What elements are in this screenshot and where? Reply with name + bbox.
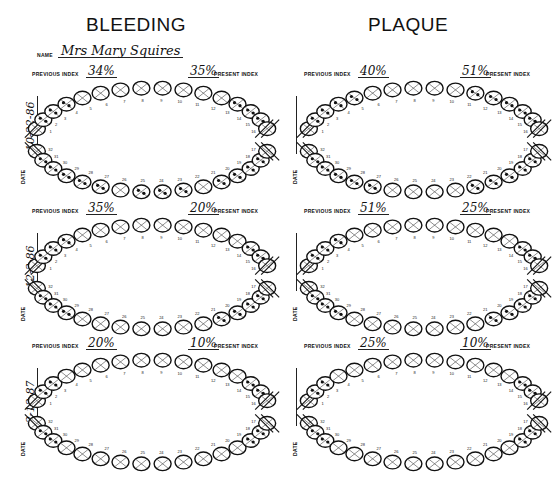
tooth-9: 9 (426, 81, 443, 103)
tooth-22: 22 (195, 311, 212, 331)
tooth-number: 23 (178, 177, 183, 182)
marked-site-dot (518, 437, 521, 440)
tooth-number: 16 (251, 401, 256, 406)
present-index-label: PRESENT INDEX (486, 208, 530, 214)
marked-site-dot (67, 104, 70, 107)
marked-site-dot (217, 179, 220, 182)
tooth-number: 16 (523, 266, 528, 271)
marked-site-dot (326, 440, 329, 443)
marked-site-dot (326, 248, 329, 251)
tooth-number: 8 (414, 98, 417, 103)
tooth-number: 27 (105, 446, 110, 451)
marked-site-dot (471, 184, 474, 187)
marked-site-dot (489, 316, 492, 319)
tooth-number: 6 (378, 239, 381, 244)
marked-site-dot (494, 182, 497, 185)
marked-site-dot (233, 310, 236, 313)
marked-site-dot (246, 108, 249, 111)
marked-site-dot (510, 104, 513, 107)
tooth-number: 27 (377, 311, 382, 316)
tooth-28: 28 (346, 170, 366, 188)
marked-site-dot (334, 238, 337, 241)
present-index-label: PRESENT INDEX (214, 71, 258, 77)
tooth-number: 25 (412, 178, 417, 183)
tooth-number: 4 (76, 110, 79, 115)
tooth-number: 21 (211, 307, 216, 312)
marked-site-dot (528, 157, 531, 160)
tooth-number: 16 (523, 401, 528, 406)
marked-site-dot (44, 120, 47, 123)
tooth-9: 9 (154, 218, 171, 240)
marked-site-dot (256, 429, 259, 432)
marked-site-dot (54, 383, 57, 386)
tooth-25: 25 (405, 450, 422, 471)
chart-plaque-3: PREVIOUS INDEX 25% 10% PRESENT INDEXDATE… (290, 338, 552, 473)
tooth-27: 27 (92, 174, 110, 194)
present-index-label: PRESENT INDEX (486, 71, 530, 77)
previous-index-label: PREVIOUS INDEX (32, 343, 79, 349)
tooth-number: 28 (88, 442, 93, 447)
marked-site-dot (505, 101, 508, 104)
tooth-26: 26 (112, 314, 129, 334)
tooth-number: 8 (142, 370, 145, 375)
tooth-number: 32 (320, 284, 325, 289)
tooth-arch-diagram: 1234567891011121314151632313029282726252… (18, 217, 280, 338)
tooth-9: 9 (426, 353, 443, 375)
tooth-number: 26 (122, 177, 127, 182)
chart-plaque-2: PREVIOUS INDEX 51% 25% PRESENT INDEXDATE… (290, 203, 552, 338)
tooth-number: 11 (195, 374, 200, 379)
marked-site-dot (494, 98, 497, 101)
tooth-number: 11 (467, 239, 472, 244)
marked-site-dot (54, 168, 57, 171)
tooth-number: 13 (225, 110, 230, 115)
marked-site-dot (54, 248, 57, 251)
marked-site-dot (39, 254, 42, 257)
marked-site-dot (316, 120, 319, 123)
tooth-number: 5 (90, 106, 93, 111)
marked-site-dot (355, 182, 358, 185)
marked-site-dot (374, 187, 377, 190)
previous-index-label: PREVIOUS INDEX (32, 208, 79, 214)
tooth-number: 2 (327, 259, 330, 264)
tooth-28: 28 (74, 307, 94, 325)
tooth-number: 18 (246, 426, 251, 431)
marked-site-dot (252, 168, 255, 171)
tooth-number: 23 (178, 449, 183, 454)
tooth-23: 23 (447, 177, 464, 197)
marked-site-dot (238, 104, 241, 107)
tooth-10: 10 (447, 83, 464, 104)
tooth-6: 6 (92, 223, 109, 244)
tooth-5: 5 (346, 228, 365, 247)
tooth-number: 11 (467, 374, 472, 379)
marked-site-dot (326, 383, 329, 386)
tooth-number: 25 (140, 315, 145, 320)
tooth-5: 5 (74, 363, 93, 382)
tooth-28: 28 (346, 442, 366, 460)
tooth-number: 18 (246, 154, 251, 159)
tooth-number: 3 (64, 253, 67, 258)
marked-site-dot (49, 380, 52, 383)
tooth-25: 25 (133, 450, 150, 471)
tooth-number: 3 (336, 116, 339, 121)
tooth-number: 20 (497, 303, 502, 308)
tooth-number: 10 (450, 99, 455, 104)
tooth-number: 24 (431, 315, 436, 320)
tooth-number: 32 (320, 147, 325, 152)
tooth-number: 27 (105, 174, 110, 179)
tooth-number: 7 (123, 236, 126, 241)
tooth-number: 22 (195, 446, 200, 451)
tooth-28: 28 (346, 307, 366, 325)
marked-site-dot (67, 313, 70, 316)
marked-site-dot (49, 437, 52, 440)
tooth-number: 9 (432, 370, 435, 375)
tooth-number: 12 (483, 243, 488, 248)
tooth-number: 27 (105, 311, 110, 316)
marked-site-dot (476, 93, 479, 96)
present-index-label: PRESENT INDEX (214, 208, 258, 214)
marked-site-dot (49, 245, 52, 248)
tooth-8: 8 (133, 218, 150, 240)
marked-site-dot (326, 305, 329, 308)
previous-index-value: 20% (86, 337, 117, 350)
tooth-27: 27 (92, 311, 110, 331)
tooth-number: 3 (64, 388, 67, 393)
